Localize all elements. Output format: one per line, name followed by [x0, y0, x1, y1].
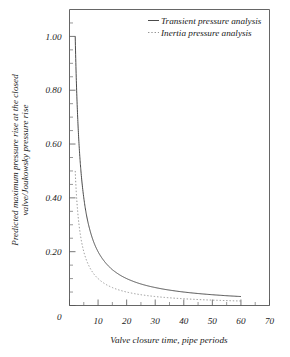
- y-axis-title-line1: Predicted maximum pressure rise at the c…: [10, 74, 20, 247]
- y-tick-label: 0: [57, 312, 62, 322]
- chart-figure: 00.200.400.600.801.00 10203040506070 Tra…: [0, 0, 290, 357]
- y-axis-title-line2: valve/Joukowsky pressure rise: [20, 104, 30, 215]
- y-tick-label: 0.20: [45, 247, 61, 257]
- x-tick-label: 70: [265, 316, 275, 326]
- plot-frame: [70, 10, 270, 306]
- x-axis-tick-labels: 10203040506070: [93, 316, 274, 326]
- legend-label-inertia: Inertia pressure analysis: [160, 28, 252, 38]
- x-tick-label: 50: [208, 316, 218, 326]
- x-tick-label: 20: [122, 316, 132, 326]
- chart-legend: Transient pressure analysis Inertia pres…: [148, 16, 262, 38]
- legend-label-transient: Transient pressure analysis: [161, 16, 262, 26]
- x-tick-label: 10: [93, 316, 103, 326]
- x-tick-label: 60: [236, 316, 246, 326]
- y-axis-tick-labels: 00.200.400.600.801.00: [45, 32, 61, 322]
- x-tick-label: 30: [150, 316, 161, 326]
- y-tick-label: 1.00: [45, 32, 61, 42]
- x-tick-label: 40: [179, 316, 189, 326]
- x-axis-ticks: [70, 300, 270, 306]
- y-axis-ticks: [70, 23, 76, 306]
- y-tick-label: 0.80: [45, 85, 61, 95]
- y-tick-label: 0.60: [45, 139, 61, 149]
- chart-svg: 00.200.400.600.801.00 10203040506070 Tra…: [0, 0, 290, 357]
- y-tick-label: 0.40: [45, 193, 61, 203]
- data-series-group: [75, 36, 241, 301]
- series-inertia-pressure-analysis: [75, 171, 241, 301]
- y-axis-title: Predicted maximum pressure rise at the c…: [10, 74, 30, 247]
- x-axis-title: Valve closure time, pipe periods: [110, 335, 228, 345]
- series-transient-pressure-analysis: [75, 36, 241, 296]
